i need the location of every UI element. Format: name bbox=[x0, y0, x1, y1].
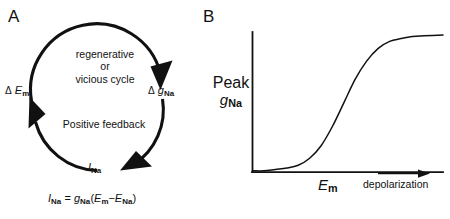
y-axis-gna-symbol: g bbox=[220, 91, 228, 108]
y-axis-label-peak: Peak bbox=[203, 74, 259, 92]
x-tick-em-symbol: E bbox=[318, 176, 328, 193]
depolarization-arrow bbox=[378, 170, 430, 178]
figure-root: A B regenerative or vicious cycle Positi… bbox=[0, 0, 450, 219]
y-axis-label-gna: gNa bbox=[203, 92, 259, 109]
y-axis-gna-subscript: Na bbox=[228, 97, 242, 109]
sigmoid-curve bbox=[253, 35, 444, 171]
x-tick-em-subscript: m bbox=[328, 182, 338, 194]
x-tick-label-em: Em bbox=[318, 176, 338, 194]
depolarization-arrow-head bbox=[418, 170, 430, 178]
x-axis-direction-label: depolarization bbox=[363, 178, 428, 190]
y-axis-label: Peak gNa bbox=[203, 74, 259, 109]
